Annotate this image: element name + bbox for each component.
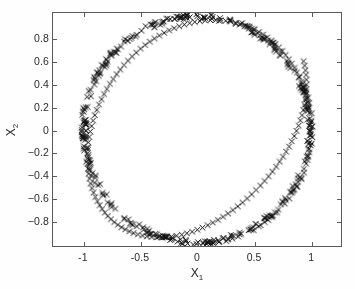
x-tick-mark-top: [255, 13, 256, 17]
y-tick-mark-right: [337, 131, 341, 132]
y-tick-label: −0.4: [28, 169, 49, 181]
y-tick-mark: [53, 62, 57, 63]
y-tick-label: 0.6: [34, 55, 49, 67]
y-axis-label: X2: [4, 124, 20, 136]
x-tick-label: -0.5: [131, 251, 150, 263]
y-tick-mark-right: [337, 222, 341, 223]
x-tick-label: 1: [308, 251, 314, 263]
x-tick-label: 0: [194, 251, 200, 263]
y-axis-label-subscript: 2: [11, 124, 20, 128]
x-tick-mark: [141, 242, 142, 246]
x-tick-mark-top: [84, 13, 85, 17]
y-tick-label: 0.8: [34, 32, 49, 44]
y-tick-mark: [53, 85, 57, 86]
y-tick-label: 0.4: [34, 78, 49, 90]
y-tick-mark: [53, 176, 57, 177]
y-tick-mark: [53, 199, 57, 200]
scatter-plot-figure: -1-0.500.51 0.80.60.40.20−0.2−0.4−0.6−0.…: [0, 0, 355, 289]
x-tick-mark-top: [312, 13, 313, 17]
y-tick-label: 0: [43, 124, 49, 136]
scatter-data-layer: [53, 13, 341, 246]
y-tick-mark: [53, 131, 57, 132]
x-tick-mark: [312, 242, 313, 246]
y-tick-mark: [53, 222, 57, 223]
y-tick-label: −0.6: [28, 192, 49, 204]
y-axis-label-base: X: [4, 128, 18, 136]
x-tick-mark: [198, 242, 199, 246]
y-tick-label: 0.2: [34, 101, 49, 113]
x-tick-mark: [255, 242, 256, 246]
y-tick-mark: [53, 153, 57, 154]
x-tick-label: -1: [78, 251, 88, 263]
x-tick-mark-top: [198, 13, 199, 17]
x-axis-label-base: X: [191, 266, 199, 280]
y-tick-mark-right: [337, 62, 341, 63]
y-tick-mark-right: [337, 39, 341, 40]
plot-axes-box: [52, 12, 342, 247]
y-tick-label: −0.2: [28, 146, 49, 158]
y-tick-mark: [53, 39, 57, 40]
x-tick-mark: [84, 242, 85, 246]
x-tick-label: 0.5: [247, 251, 262, 263]
y-tick-mark-right: [337, 85, 341, 86]
y-tick-label: −0.8: [28, 215, 49, 227]
x-tick-mark-top: [141, 13, 142, 17]
y-tick-mark-right: [337, 199, 341, 200]
y-tick-mark: [53, 108, 57, 109]
x-axis-label: X1: [191, 266, 203, 282]
y-tick-mark-right: [337, 176, 341, 177]
y-tick-mark-right: [337, 108, 341, 109]
x-axis-label-subscript: 1: [199, 273, 203, 282]
y-tick-mark-right: [337, 153, 341, 154]
